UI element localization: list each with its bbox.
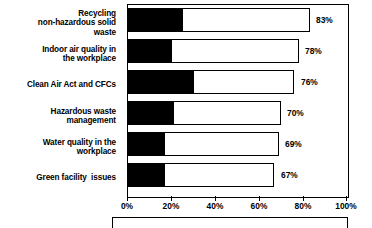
horizontal-bar-chart: Recycling non-hazardous solid waste Indo… (0, 0, 372, 228)
x-axis-tick-label: 40% (207, 201, 224, 211)
bar-value-label: 69% (285, 139, 302, 149)
x-axis-tick-label: 100% (335, 201, 356, 211)
x-axis-tick-label: 0% (121, 201, 133, 211)
bar-fill-segment (128, 40, 172, 62)
x-axis-tick-labels: 0% 20% 40% 60% 80% 100% (127, 201, 347, 213)
bar-fill-segment (128, 71, 194, 93)
bar-fill-segment (128, 9, 183, 31)
bar-water-quality-in-the-workplace (127, 132, 279, 156)
category-label-recycling-non-hazardous-solid-waste: Recycling non-hazardous solid waste (0, 8, 116, 38)
bar-value-label: 76% (301, 77, 318, 87)
bar-value-label: 67% (281, 170, 298, 180)
bar-recycling-non-hazardous-solid-waste (127, 8, 310, 32)
bar-value-label: 70% (287, 108, 304, 118)
category-label-water-quality-in-the-workplace: Water quality in the workplace (0, 132, 116, 162)
bar-value-label: 78% (305, 46, 322, 56)
x-axis-tick-label: 20% (163, 201, 180, 211)
category-label-clean-air-act-and-cfcs: Clean Air Act and CFCs (0, 70, 116, 100)
category-label-green-facility-issues: Green facility issues (0, 163, 116, 193)
category-label-hazardous-waste-management: Hazardous waste management (0, 101, 116, 131)
bar-fill-segment (128, 102, 174, 124)
x-axis-tick-label: 60% (251, 201, 268, 211)
bar-green-facility-issues (127, 163, 274, 187)
bar-clean-air-act-and-cfcs (127, 70, 294, 94)
bar-fill-segment (128, 133, 165, 155)
category-label-indoor-air-quality-in-the-workplace: Indoor air quality in the workplace (0, 39, 116, 69)
x-axis-tick-label: 80% (295, 201, 312, 211)
category-axis-labels: Recycling non-hazardous solid waste Indo… (0, 8, 120, 192)
bars-layer: 83% 78% 76% 70% 69% (127, 4, 347, 196)
bar-indoor-air-quality-in-the-workplace (127, 39, 299, 63)
bar-hazardous-waste-management (127, 101, 281, 125)
bar-value-label: 83% (316, 15, 333, 25)
bar-fill-segment (128, 164, 165, 186)
caption-box (112, 217, 348, 228)
